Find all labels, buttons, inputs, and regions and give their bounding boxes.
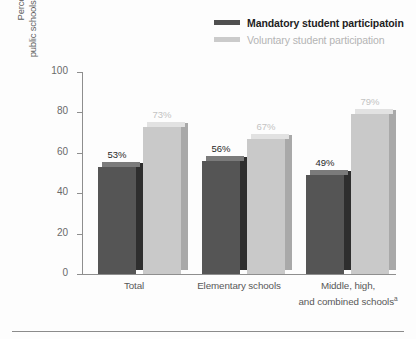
bar-side <box>389 110 396 270</box>
y-tick-label-80: 80 <box>57 105 68 116</box>
legend-swatch-mandatory-icon <box>214 20 240 25</box>
bar-side <box>344 171 351 270</box>
bar-face <box>247 139 285 274</box>
x-label-middle-footnote: a <box>394 295 398 302</box>
y-axis-title-line2: public schools with service-learning <box>27 0 39 57</box>
y-tick-label-0: 0 <box>62 267 68 278</box>
y-tick-40: 40 <box>77 193 82 194</box>
y-tick-label-40: 40 <box>57 186 68 197</box>
bar-mandatory-group-2[interactable] <box>306 175 344 274</box>
bar-value-mandatory-group-1: 56% <box>196 143 246 154</box>
bar-side <box>285 135 292 270</box>
bar-mandatory-group-0[interactable] <box>98 167 136 274</box>
bar-side <box>181 123 188 270</box>
bar-value-voluntary-group-1: 67% <box>241 121 291 132</box>
y-tick-0: 0 <box>77 274 82 275</box>
bar-top <box>102 162 140 167</box>
x-label-middle-line2: and combined schools <box>298 296 394 307</box>
legend-label-mandatory: Mandatory student participatoin <box>247 17 404 29</box>
bar-top <box>147 122 185 127</box>
bar-face <box>306 175 344 274</box>
bar-face <box>143 127 181 274</box>
bar-voluntary-group-2[interactable] <box>351 114 389 274</box>
x-label-middle-line2-wrap: and combined schoolsa <box>278 293 416 309</box>
x-axis-line <box>82 274 396 275</box>
bar-face <box>98 167 136 274</box>
bar-side <box>240 157 247 270</box>
legend-swatch-voluntary-icon <box>214 37 240 42</box>
y-tick-20: 20 <box>77 234 82 235</box>
bar-face <box>202 161 240 274</box>
y-tick-label-20: 20 <box>57 227 68 238</box>
bar-top <box>206 156 244 161</box>
y-tick-80: 80 <box>77 112 82 113</box>
chart-figure: Mandatory student participatoin Voluntar… <box>0 0 416 339</box>
y-axis-title: Percentage of all public schools with se… <box>9 0 45 94</box>
bar-top <box>355 109 393 114</box>
legend-item-mandatory[interactable]: Mandatory student participatoin <box>214 14 414 31</box>
bar-face <box>351 114 389 274</box>
bar-side <box>136 163 143 270</box>
bar-voluntary-group-0[interactable] <box>143 127 181 274</box>
bar-value-mandatory-group-2: 49% <box>300 157 350 168</box>
footer-divider <box>12 331 404 332</box>
x-axis-labels: Total Elementary schools Middle, high, a… <box>82 280 396 320</box>
bar-value-mandatory-group-0: 53% <box>92 149 142 160</box>
bar-top <box>310 170 348 175</box>
plot-area: 100 80 60 40 20 0 53%73%56%67%49%79% <box>82 72 396 275</box>
bar-voluntary-group-1[interactable] <box>247 139 285 274</box>
y-axis-line <box>82 72 83 275</box>
y-tick-100: 100 <box>77 72 82 73</box>
x-label-middle-high-combined: Middle, high, and combined schoolsa <box>278 280 416 308</box>
y-tick-label-100: 100 <box>51 65 68 76</box>
bar-mandatory-group-1[interactable] <box>202 161 240 274</box>
bar-value-voluntary-group-2: 79% <box>345 96 395 107</box>
bar-top <box>251 134 289 139</box>
legend-item-voluntary[interactable]: Voluntary student participation <box>214 31 414 48</box>
legend-label-voluntary: Voluntary student participation <box>247 34 385 46</box>
x-label-middle-line1: Middle, high, <box>278 280 416 293</box>
y-tick-60: 60 <box>77 153 82 154</box>
y-tick-label-60: 60 <box>57 146 68 157</box>
bar-value-voluntary-group-0: 73% <box>137 109 187 120</box>
chart-legend: Mandatory student participatoin Voluntar… <box>214 14 414 48</box>
y-axis-title-line1: Percentage of all <box>15 0 27 57</box>
